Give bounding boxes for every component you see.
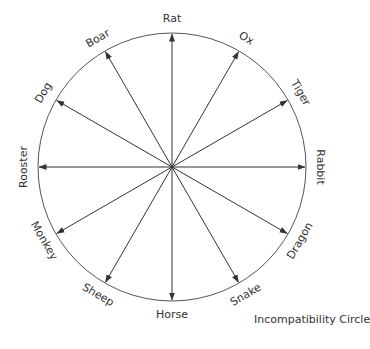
arrow-sheep — [106, 167, 173, 282]
arrow-boar — [106, 52, 173, 167]
arrow-ox — [172, 52, 239, 167]
arrow-tiger — [172, 101, 287, 168]
label-ox: Ox — [236, 29, 256, 48]
diagram-caption: Incompatibility Circle — [254, 313, 370, 326]
arrow-dragon — [172, 167, 287, 234]
label-tiger: Tiger — [288, 77, 314, 109]
label-rat: Rat — [163, 12, 182, 25]
arrow-dog — [57, 101, 172, 168]
label-snake: Snake — [228, 281, 264, 309]
label-dragon: Dragon — [284, 220, 315, 262]
label-rabbit: Rabbit — [314, 149, 327, 185]
arrows-group — [39, 34, 305, 300]
label-dog: Dog — [32, 80, 54, 106]
label-horse: Horse — [156, 308, 188, 321]
arrow-snake — [172, 167, 239, 282]
label-rooster: Rooster — [17, 146, 30, 188]
label-boar: Boar — [83, 26, 112, 50]
label-sheep: Sheep — [80, 281, 116, 310]
arrow-monkey — [57, 167, 172, 234]
label-monkey: Monkey — [28, 219, 61, 263]
